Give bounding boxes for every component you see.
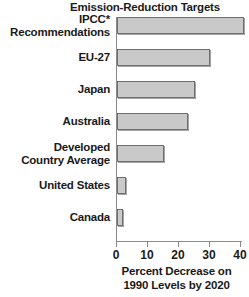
- x-axis-tick-label: 40: [225, 248, 249, 262]
- x-axis-tick-label: 30: [194, 248, 224, 262]
- bar-category-label-line-1: United States: [0, 179, 110, 192]
- bar: [117, 113, 188, 130]
- x-axis-tick: [178, 242, 179, 247]
- bar: [117, 81, 195, 98]
- bar-category-label-line-2: Country Average: [0, 154, 110, 167]
- bar-category-label-line-1: Australia: [0, 115, 110, 128]
- bar: [117, 177, 126, 194]
- bar-category-label-line-2: Recommendations: [0, 26, 110, 39]
- x-axis-tick-label: 10: [132, 248, 162, 262]
- plot-area: IPCC*RecommendationsEU-27JapanAustraliaD…: [0, 0, 249, 297]
- bar-category-label-line-1: EU-27: [0, 51, 110, 64]
- x-axis-tick: [147, 242, 148, 247]
- bar-category-label: IPCC*Recommendations: [0, 13, 110, 39]
- bar-category-label-line-1: IPCC*: [0, 13, 110, 26]
- x-axis-tick-label: 20: [163, 248, 193, 262]
- x-axis-label-line-2: 1990 Levels by 2020: [104, 278, 249, 292]
- emission-reduction-targets-chart: Emission-Reduction Targets IPCC*Recommen…: [0, 0, 249, 297]
- x-axis-label-line-1: Percent Decrease on: [104, 264, 249, 278]
- bar-category-label: DevelopedCountry Average: [0, 141, 110, 167]
- x-axis-tick: [209, 242, 210, 247]
- bar-category-label: EU-27: [0, 51, 110, 64]
- bar-category-label-line-1: Canada: [0, 211, 110, 224]
- bar: [117, 145, 164, 162]
- table-row: EU-27: [0, 49, 249, 81]
- table-row: Japan: [0, 81, 249, 113]
- bar-category-label-line-1: Developed: [0, 141, 110, 154]
- table-row: DevelopedCountry Average: [0, 145, 249, 177]
- bar-category-label: Canada: [0, 211, 110, 224]
- bar: [117, 49, 210, 66]
- table-row: United States: [0, 177, 249, 209]
- x-axis-label: Percent Decrease on 1990 Levels by 2020: [104, 264, 249, 292]
- bar: [117, 17, 244, 34]
- bar-category-label: Australia: [0, 115, 110, 128]
- table-row: Canada: [0, 209, 249, 241]
- bar: [117, 209, 123, 226]
- x-axis-tick: [116, 242, 117, 247]
- x-axis-tick-label: 0: [101, 248, 131, 262]
- bar-category-label: United States: [0, 179, 110, 192]
- bar-category-label-line-1: Japan: [0, 83, 110, 96]
- table-row: IPCC*Recommendations: [0, 17, 249, 49]
- bar-category-label: Japan: [0, 83, 110, 96]
- x-axis-tick: [240, 242, 241, 247]
